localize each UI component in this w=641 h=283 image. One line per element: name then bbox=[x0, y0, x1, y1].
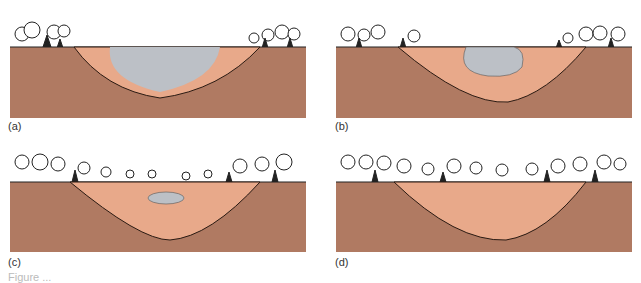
trees-icon bbox=[15, 154, 292, 182]
panel-label-d: (d) bbox=[335, 256, 348, 268]
panel-b bbox=[336, 10, 632, 118]
panel-label-c: (c) bbox=[8, 256, 21, 268]
panel-label-a: (a) bbox=[8, 120, 21, 132]
trees-icon bbox=[15, 22, 300, 48]
trees-icon bbox=[341, 155, 626, 182]
figure-caption: Figure ... bbox=[8, 271, 51, 283]
lake-cross-section-d bbox=[336, 142, 632, 252]
panel-label-b: (b) bbox=[335, 120, 348, 132]
panel-c bbox=[10, 142, 306, 252]
lake-cross-section-b bbox=[336, 10, 632, 118]
trees-icon bbox=[341, 25, 625, 48]
panel-a bbox=[10, 10, 306, 118]
lake-cross-section-c bbox=[10, 142, 306, 252]
lake-cross-section-a bbox=[10, 10, 306, 118]
panel-d bbox=[336, 142, 632, 252]
